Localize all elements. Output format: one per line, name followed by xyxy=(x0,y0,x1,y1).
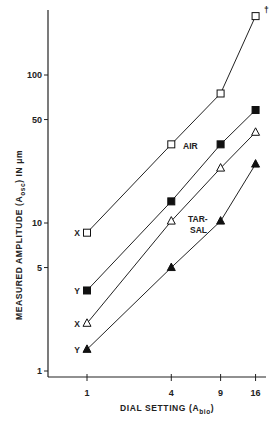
filled-triangle-marker xyxy=(217,217,225,225)
filled-square-marker xyxy=(252,107,259,114)
open-square-marker xyxy=(84,229,91,236)
x-tick-label: 1 xyxy=(84,388,89,398)
x-axis-title: DIAL SETTING (Abio) xyxy=(120,403,214,415)
filled-square-marker xyxy=(168,198,175,205)
tarsal-annotation-line2: SAL xyxy=(190,225,207,235)
filled-triangle-marker xyxy=(167,263,175,271)
series-axis-label: Y xyxy=(74,286,80,296)
y-axis-title: MEASURED AMPLITUDE (Aosc) IN μm xyxy=(14,150,26,320)
series-axis-label: X xyxy=(74,319,80,329)
series-axis-label: Y xyxy=(74,345,80,355)
open-square-marker xyxy=(217,90,224,97)
y-tick-label: 10 xyxy=(32,218,42,228)
air-annotation: AIR xyxy=(183,141,198,151)
filled-triangle-marker xyxy=(252,160,260,168)
y-tick-label: 5 xyxy=(37,263,42,273)
filled-square-marker xyxy=(84,287,91,294)
filled-square-marker xyxy=(217,141,224,148)
series-side-labels: XYXY xyxy=(74,228,80,355)
dagger-note: † xyxy=(264,5,269,15)
x-tick-label: 16 xyxy=(251,388,261,398)
series-line xyxy=(87,132,256,323)
y-tick-label: 100 xyxy=(27,70,42,80)
series-line xyxy=(87,164,256,349)
tarsal-annotation-line1: TAR- xyxy=(188,214,208,224)
open-triangle-marker xyxy=(252,128,260,135)
open-square-marker xyxy=(168,141,175,148)
y-tick-label: 1 xyxy=(37,366,42,376)
open-square-marker xyxy=(252,13,259,20)
chart: 151050100 14916 XYXY AIR TAR- SAL † DIAL… xyxy=(0,0,276,421)
y-tick-label: 50 xyxy=(32,115,42,125)
x-tick-label: 4 xyxy=(169,388,174,398)
y-ticks: 151050100 xyxy=(27,70,48,376)
x-tick-label: 9 xyxy=(218,388,223,398)
series-axis-label: X xyxy=(74,228,80,238)
series-group xyxy=(83,13,260,353)
